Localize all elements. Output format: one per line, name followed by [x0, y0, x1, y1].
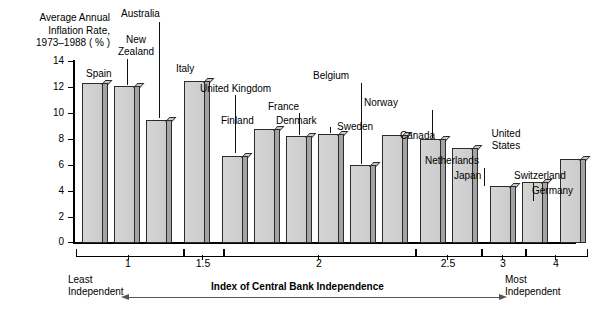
bracket-group-3: [482, 249, 526, 257]
label-denmark: Denmark: [276, 115, 317, 127]
label-australia: Australia: [121, 8, 160, 20]
bar-belgium: [350, 165, 376, 243]
label-united-kingdom: United Kingdom: [200, 83, 271, 95]
bar-united-kingdom: [222, 156, 248, 243]
y-tick-label-0: 0: [42, 237, 64, 247]
least-independent-label: Least Independent: [68, 274, 124, 298]
bracket-group-2: [224, 249, 416, 257]
x-axis-title: Index of Central Bank Independence: [211, 281, 384, 292]
label-united-states: United States: [484, 128, 528, 151]
label-new-zealand: New Zealand: [110, 34, 162, 57]
label-norway: Norway: [364, 97, 398, 109]
leader-australia: [159, 22, 160, 118]
bar-new-zealand: [114, 86, 140, 243]
leader-netherlands: [484, 168, 485, 186]
label-france: France: [268, 101, 299, 113]
bracket-group-4: [526, 249, 588, 257]
label-germany: Germany: [532, 185, 573, 197]
y-tick-label-2: 2: [42, 212, 64, 222]
group-label-1.5: 1.5: [183, 258, 223, 269]
label-japan: Japan: [454, 170, 481, 182]
group-label-3: 3: [483, 258, 523, 269]
group-label-4: 4: [536, 258, 576, 269]
label-italy: Italy: [176, 63, 194, 75]
arrow-left-icon: [121, 294, 129, 300]
group-label-1: 1: [108, 258, 148, 269]
bracket-group-1.5: [184, 249, 224, 257]
chart-canvas: Average Annual Inflation Rate, 1973–1988…: [0, 0, 597, 312]
y-tick-label-14: 14: [42, 56, 64, 66]
y-tick-label-8: 8: [42, 134, 64, 144]
bar-australia: [146, 120, 172, 244]
label-sweden: Sweden: [337, 121, 373, 133]
bar-denmark: [318, 134, 344, 243]
arrow-right-icon: [499, 294, 507, 300]
bracket-group-2.5: [416, 249, 482, 257]
bar-finland: [254, 129, 280, 243]
label-belgium: Belgium: [313, 70, 349, 82]
independence-arrow-line: [128, 297, 500, 298]
bracket-group-1: [76, 249, 184, 257]
label-canada: Canada: [400, 130, 435, 142]
leader-new-zealand: [127, 59, 128, 85]
y-tick-label-12: 12: [42, 82, 64, 92]
y-tick-label-6: 6: [42, 160, 64, 170]
y-axis-title: Average Annual Inflation Rate, 1973–1988…: [6, 12, 110, 50]
bar-sweden: [382, 135, 408, 243]
y-tick-label-4: 4: [42, 186, 64, 196]
most-independent-label: Most Independent: [505, 274, 561, 298]
label-finland: Finland: [221, 115, 254, 127]
label-spain: Spain: [86, 68, 112, 80]
leader-denmark: [330, 127, 331, 133]
bar-france: [286, 136, 312, 243]
bar-netherlands: [490, 186, 516, 243]
label-netherlands: Netherlands: [425, 155, 479, 167]
group-label-2.5: 2.5: [428, 258, 468, 269]
y-tick-label-10: 10: [42, 108, 64, 118]
label-switzerland: Switzerland: [514, 170, 566, 182]
plot-area: [74, 61, 574, 243]
group-label-2: 2: [299, 258, 339, 269]
bar-italy: [184, 81, 210, 244]
bar-spain: [82, 83, 108, 243]
